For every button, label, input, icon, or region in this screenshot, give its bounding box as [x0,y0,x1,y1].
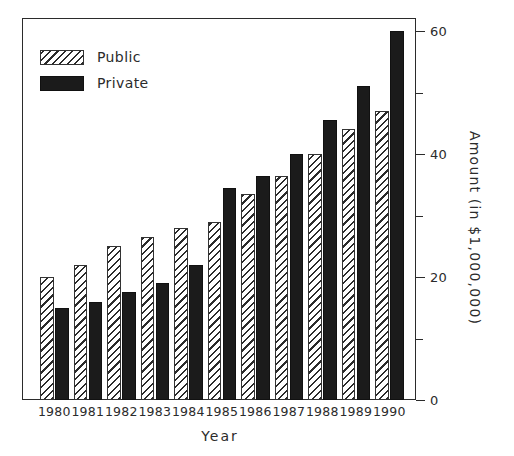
y-tick-label-20: 20 [430,270,447,285]
bar-group [241,19,270,400]
x-axis-title: Year [0,428,440,444]
x-tick-label-1989: 1989 [339,404,372,419]
y-tick-minor-30 [416,216,423,217]
bar-public-1987 [275,176,289,400]
y-tick-major-20 [416,277,425,278]
x-tick-label-1982: 1982 [105,404,138,419]
chart-legend: Public Private [40,46,210,98]
x-tick-label-1987: 1987 [272,404,305,419]
bar-private-1981 [89,302,103,400]
legend-item-public: Public [40,46,210,68]
bar-public-1984 [174,228,188,400]
x-tick-label-1988: 1988 [306,404,339,419]
bar-group [375,19,404,400]
bar-public-1983 [141,237,155,400]
y-axis-title-text: Amount (in $1,000,000) [467,131,483,325]
bar-private-1982 [122,292,136,400]
bar-chart: Public Private 0204060 Amount (in $1,000… [0,0,514,456]
bar-private-1983 [156,283,170,400]
y-tick-minor-10 [416,339,423,340]
y-tick-major-40 [416,154,425,155]
y-tick-major-0 [416,400,425,401]
bar-private-1985 [223,188,237,400]
x-tick-label-1985: 1985 [205,404,238,419]
bar-private-1989 [357,86,371,400]
bar-public-1985 [208,222,222,400]
x-tick-label-1981: 1981 [71,404,104,419]
y-tick-label-40: 40 [430,147,447,162]
bar-public-1980 [40,277,54,400]
bar-private-1984 [189,265,203,400]
legend-swatch-public-icon [40,50,84,65]
bar-group [342,19,371,400]
bar-private-1986 [256,176,270,400]
legend-swatch-private-icon [40,76,84,91]
y-tick-minor-50 [416,93,423,94]
bar-public-1981 [74,265,88,400]
bar-public-1988 [308,154,322,400]
x-tick-label-1990: 1990 [373,404,406,419]
legend-item-private: Private [40,72,210,94]
x-tick-label-1980: 1980 [38,404,71,419]
bar-group [275,19,304,400]
bar-public-1986 [241,194,255,400]
y-axis-title: Amount (in $1,000,000) [455,0,495,456]
x-tick-label-1983: 1983 [138,404,171,419]
bar-private-1988 [323,120,337,400]
y-tick-label-60: 60 [430,24,447,39]
legend-label-private: Private [97,75,149,91]
bar-public-1990 [375,111,389,400]
legend-label-public: Public [97,49,141,65]
x-tick-label-1986: 1986 [239,404,272,419]
y-tick-label-0: 0 [430,393,439,408]
x-tick-label-1984: 1984 [172,404,205,419]
bar-public-1982 [107,246,121,400]
bar-private-1980 [55,308,69,400]
bar-public-1989 [342,129,356,400]
bar-group [308,19,337,400]
bar-private-1990 [390,31,404,400]
bar-private-1987 [290,154,304,400]
bar-group [208,19,237,400]
y-tick-major-60 [416,31,425,32]
